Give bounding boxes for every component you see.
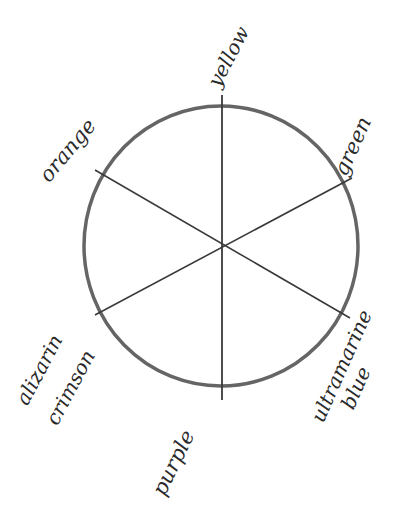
- wheel-circle: [84, 106, 358, 386]
- spoke-crimson-green: [95, 178, 352, 315]
